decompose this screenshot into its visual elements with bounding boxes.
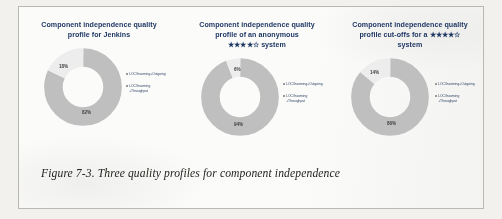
chart-panel-jenkins: Component independence quality profile f… xyxy=(19,11,179,151)
figure-caption: Figure 7-3. Three quality profiles for c… xyxy=(41,167,340,180)
donut-area: 18% 82% LOC/Incoming+Outgoing LOC/Incomi… xyxy=(19,46,179,138)
scanned-page: Component independence quality profile f… xyxy=(18,6,484,209)
legend-label-1: LOC/Incoming+Outgoing xyxy=(438,82,474,87)
legend-label-1: LOC/Incoming+Outgoing xyxy=(286,82,322,87)
legend-item-1: LOC/Incoming+Outgoing xyxy=(126,72,166,77)
legend-swatch-icon xyxy=(126,73,128,75)
chart-title: Component independence quality profile f… xyxy=(19,20,179,40)
legend-swatch-icon xyxy=(283,95,285,97)
slice-minor xyxy=(360,68,419,127)
legend-label-2b: +Throughput xyxy=(286,99,307,104)
donut-area: 6% 94% LOC/Incoming+Outgoing LOC/Incomin… xyxy=(179,56,335,148)
charts-row: Component independence quality profile f… xyxy=(19,11,484,151)
slice-label-minor: 6% xyxy=(234,67,241,72)
slice-minor xyxy=(210,68,269,127)
legend-item-1: LOC/Incoming+Outgoing xyxy=(283,82,323,87)
legend-label-2b: +Throughput xyxy=(129,89,150,94)
legend-item-2: LOC/Incoming +Throughput xyxy=(283,94,323,104)
chart-legend: LOC/Incoming+Outgoing LOC/Incoming +Thro… xyxy=(126,72,166,94)
legend-item-2: LOC/Incoming +Throughput xyxy=(126,84,166,94)
slice-label-major: 82% xyxy=(82,110,91,115)
legend-swatch-icon xyxy=(126,85,128,87)
legend-swatch-icon xyxy=(283,83,285,85)
chart-title-line3: system xyxy=(398,41,423,49)
chart-title-line3: system xyxy=(261,41,286,49)
donut-chart: 6% 94% xyxy=(201,58,279,136)
legend-item-2: LOC/Incoming +Throughput xyxy=(435,94,475,104)
slice-label-major: 86% xyxy=(387,121,396,126)
donut-area: 14% 86% LOC/Incoming+Outgoing LOC/Incomi… xyxy=(335,56,484,148)
chart-title: Component independence quality profile c… xyxy=(335,20,484,50)
star-rating-icon: ★★★★☆ xyxy=(430,30,461,39)
legend-swatch-icon xyxy=(435,83,437,85)
chart-title-line1: Component independence quality xyxy=(352,21,467,29)
chart-panel-cutoffs: Component independence quality profile c… xyxy=(335,11,484,151)
chart-title-line2: profile cut-offs for a xyxy=(359,31,427,39)
slice-label-major: 94% xyxy=(234,122,243,127)
chart-title-line1: Component independence quality xyxy=(41,21,156,29)
chart-legend: LOC/Incoming+Outgoing LOC/Incoming +Thro… xyxy=(283,82,323,104)
star-rating-icon: ★★★★☆ xyxy=(228,40,259,49)
legend-label-1: LOC/Incoming+Outgoing xyxy=(129,72,165,77)
donut-chart: 18% 82% xyxy=(44,48,122,126)
legend-label-2b: +Throughput xyxy=(438,99,459,104)
slice-label-minor: 14% xyxy=(370,70,379,75)
legend-item-1: LOC/Incoming+Outgoing xyxy=(435,82,475,87)
slice-label-minor: 18% xyxy=(59,64,68,69)
chart-title-line1: Component independence quality xyxy=(199,21,314,29)
chart-panel-anonymous: Component independence quality profile o… xyxy=(179,11,335,151)
donut-chart: 14% 86% xyxy=(351,58,429,136)
legend-swatch-icon xyxy=(435,95,437,97)
chart-title-line2: profile for Jenkins xyxy=(68,31,130,39)
chart-title-line2: profile of an anonymous xyxy=(215,31,299,39)
chart-legend: LOC/Incoming+Outgoing LOC/Incoming +Thro… xyxy=(435,82,475,104)
chart-title: Component independence quality profile o… xyxy=(179,20,335,50)
